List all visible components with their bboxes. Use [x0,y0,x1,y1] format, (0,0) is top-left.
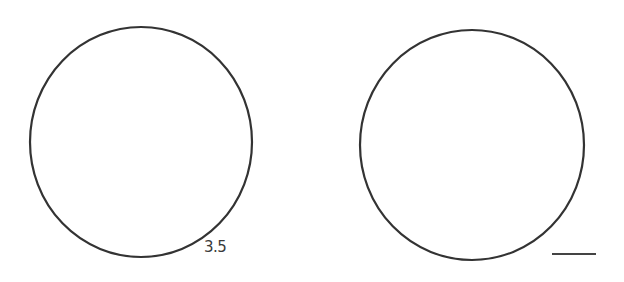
left-circle [30,27,252,257]
figure-canvas [0,0,624,282]
right-circle [360,30,584,260]
left-circle-label: 3.5 [204,238,226,256]
